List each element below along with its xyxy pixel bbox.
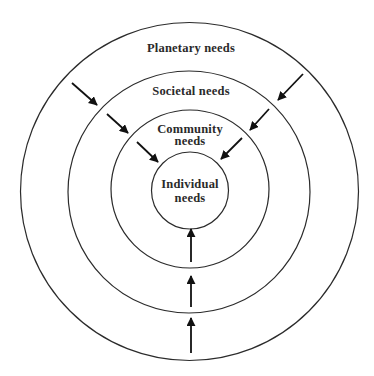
arrow-icon [278,74,303,100]
arrow-icon [137,142,158,162]
individual-label-line2: needs [175,191,206,205]
individual-label-line1: Individual [161,177,219,191]
arrow-icon [221,138,242,159]
arrow-icon [72,83,97,105]
societal-label: Societal needs [152,84,229,98]
needs-diagram: Planetary needs Societal needs Community… [0,0,374,376]
planetary-label: Planetary needs [147,41,235,55]
community-label-line2: needs [175,134,206,148]
arrow-icon [250,109,269,130]
arrow-icon [107,114,128,133]
